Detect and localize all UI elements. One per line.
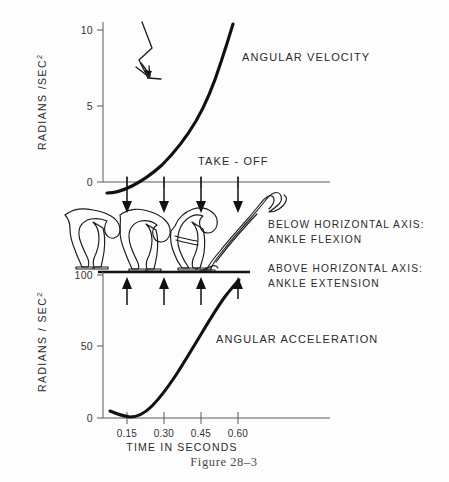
above-axis-note-line1: ABOVE HORIZONTAL AXIS: bbox=[268, 263, 423, 274]
acceleration-y-axis-title: RADIANS / SEC2 bbox=[35, 291, 48, 392]
acceleration-xtick-label-045: 0.45 bbox=[191, 428, 212, 439]
up-arrow-1 bbox=[122, 277, 132, 305]
below-axis-note-line1: BELOW HORIZONTAL AXIS: bbox=[268, 219, 425, 230]
velocity-series-title: ANGULAR VELOCITY bbox=[242, 51, 370, 63]
dive-figure-4 bbox=[200, 193, 286, 272]
acceleration-y-axis-title-text: RADIANS / SEC bbox=[36, 297, 48, 392]
ankle-angle-inset bbox=[136, 22, 161, 79]
biomechanics-figure: 10 5 0 RADIANS /SEC2 TAKE - OFF ANGULAR … bbox=[0, 0, 449, 482]
figure-caption: Figure 28–3 bbox=[190, 455, 257, 469]
svg-text:RADIANS /SEC2: RADIANS /SEC2 bbox=[35, 54, 48, 150]
up-arrow-group bbox=[122, 277, 243, 305]
racing-dive-sequence bbox=[65, 193, 286, 272]
axis-interpretation-notes: BELOW HORIZONTAL AXIS: ANKLE FLEXION ABO… bbox=[268, 219, 425, 289]
acceleration-curve bbox=[110, 280, 239, 417]
angular-velocity-chart: 10 5 0 RADIANS /SEC2 TAKE - OFF ANGULAR … bbox=[35, 22, 370, 193]
angular-acceleration-chart: 100 50 0 RADIANS / SEC2 0.15 0.30 0.45 0… bbox=[35, 269, 378, 453]
acceleration-xtick-label-030: 0.30 bbox=[154, 428, 175, 439]
acceleration-x-axis-title: TIME IN SECONDS bbox=[126, 441, 237, 453]
above-axis-note-line2: ANKLE EXTENSION bbox=[268, 278, 380, 289]
acceleration-xtick-label-015: 0.15 bbox=[117, 428, 138, 439]
acceleration-ytick-label-0: 0 bbox=[87, 412, 93, 424]
acceleration-series-title: ANGULAR ACCELERATION bbox=[216, 333, 378, 345]
velocity-y-axis-title-text: RADIANS /SEC bbox=[36, 59, 48, 150]
velocity-y-axis-title: RADIANS /SEC2 bbox=[35, 54, 48, 150]
acceleration-y-axis-title-superscript: 2 bbox=[35, 291, 44, 296]
dive-figure-1 bbox=[65, 209, 120, 269]
svg-text:RADIANS / SEC2: RADIANS / SEC2 bbox=[35, 291, 48, 392]
acceleration-ytick-label-100: 100 bbox=[75, 269, 93, 281]
velocity-y-axis-title-superscript: 2 bbox=[35, 54, 44, 59]
up-arrow-3 bbox=[196, 277, 206, 305]
acceleration-xtick-label-060: 0.60 bbox=[228, 428, 249, 439]
dive-figure-3 bbox=[171, 208, 218, 270]
takeoff-label: TAKE - OFF bbox=[198, 155, 269, 167]
dive-figure-2 bbox=[120, 209, 170, 271]
velocity-ytick-label-0: 0 bbox=[87, 176, 93, 188]
acceleration-ytick-label-50: 50 bbox=[81, 340, 93, 352]
below-axis-note-line2: ANKLE FLEXION bbox=[268, 234, 362, 245]
up-arrow-2 bbox=[159, 277, 169, 305]
figure-page: 10 5 0 RADIANS /SEC2 TAKE - OFF ANGULAR … bbox=[0, 0, 449, 482]
velocity-curve bbox=[107, 24, 233, 193]
velocity-ytick-label-10: 10 bbox=[81, 24, 93, 36]
velocity-ytick-label-5: 5 bbox=[87, 100, 93, 112]
